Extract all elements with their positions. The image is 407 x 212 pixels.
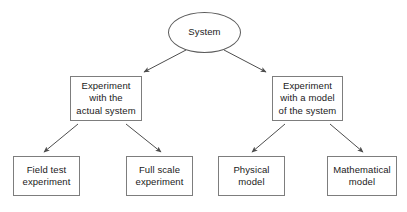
node-experiment-actual[interactable]: Experiment with the actual system <box>70 76 142 121</box>
edge-experiment-model-to-mathematical-model <box>330 124 363 152</box>
node-mathematical-model[interactable]: Mathematical model <box>327 156 397 196</box>
node-experiment-actual-label: Experiment with the actual system <box>74 80 137 118</box>
edge-system-to-experiment-actual <box>144 50 186 72</box>
node-physical-model[interactable]: Physical model <box>218 156 285 196</box>
node-experiment-model[interactable]: Experiment with a model of the system <box>272 76 343 121</box>
edge-experiment-model-to-physical-model <box>252 124 285 152</box>
edge-experiment-actual-to-field-test <box>44 124 78 152</box>
node-system-label: System <box>186 26 222 39</box>
node-physical-model-label: Physical model <box>231 164 271 189</box>
node-full-scale-label: Full scale experiment <box>134 164 186 189</box>
node-field-test[interactable]: Field test experiment <box>13 156 80 196</box>
node-experiment-model-label: Experiment with a model of the system <box>277 80 339 118</box>
node-field-test-label: Field test experiment <box>21 164 73 189</box>
edge-system-to-experiment-model <box>224 50 266 72</box>
node-system[interactable]: System <box>168 12 241 53</box>
system-study-diagram: System Experiment with the actual system… <box>0 0 407 212</box>
edge-experiment-actual-to-full-scale <box>126 124 161 152</box>
node-full-scale[interactable]: Full scale experiment <box>126 156 193 196</box>
node-mathematical-model-label: Mathematical model <box>331 164 393 189</box>
